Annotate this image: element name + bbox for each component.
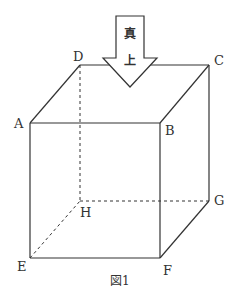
vertex-label-D: D xyxy=(73,50,83,63)
cube-diagram xyxy=(0,0,237,307)
arrow-label-top: 真 xyxy=(124,28,136,40)
vertex-label-B: B xyxy=(165,124,175,137)
vertex-label-E: E xyxy=(17,260,27,273)
vertex-label-H: H xyxy=(80,206,91,219)
vertex-label-F: F xyxy=(163,264,172,277)
vertex-label-G: G xyxy=(214,194,224,207)
edge-AD xyxy=(30,65,80,123)
edge-FG xyxy=(160,201,209,258)
edge-EH xyxy=(30,201,80,258)
arrow-label-bottom: 上 xyxy=(124,55,136,67)
vertex-label-C: C xyxy=(214,54,224,67)
figure-caption: 図1 xyxy=(110,275,130,287)
edge-BC xyxy=(160,65,209,123)
vertex-label-A: A xyxy=(14,117,23,130)
